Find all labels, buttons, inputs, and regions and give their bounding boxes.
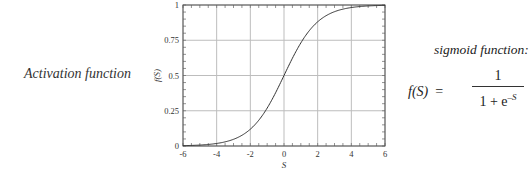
activation-function-label: Activation function — [24, 66, 131, 82]
formula-numerator: 1 — [472, 68, 524, 84]
formula-fraction: 1 1 + e–S — [472, 68, 524, 110]
x-tick-label: -4 — [213, 149, 221, 159]
y-tick-label: 0 — [175, 141, 179, 151]
x-tick-label: 0 — [282, 149, 286, 159]
denominator-base: 1 + e — [479, 94, 507, 109]
x-tick-label: 4 — [349, 149, 354, 159]
formula-title: sigmoid function: — [434, 42, 529, 58]
y-tick-label: 0.75 — [164, 35, 179, 45]
x-axis-label: S — [282, 160, 287, 170]
formula-lhs-text: f(S) — [408, 84, 428, 99]
sigmoid-chart: -6-4-2024600.250.50.751Sf(S) — [140, 0, 390, 175]
y-axis-label: f(S) — [152, 69, 162, 82]
x-tick-label: 2 — [316, 149, 320, 159]
denominator-exponent: –S — [508, 92, 517, 102]
y-tick-label: 0.5 — [168, 71, 179, 81]
formula-lhs: f(S)= — [408, 84, 443, 100]
x-tick-label: -2 — [247, 149, 254, 159]
x-tick-label: 6 — [383, 149, 387, 159]
y-tick-label: 1 — [175, 0, 179, 10]
fraction-bar — [472, 86, 524, 87]
y-tick-label: 0.25 — [164, 106, 179, 116]
chart-canvas: -6-4-2024600.250.50.751Sf(S) — [140, 0, 390, 175]
formula-denominator: 1 + e–S — [472, 89, 524, 110]
formula-equals: = — [435, 84, 443, 99]
x-tick-label: -6 — [179, 149, 186, 159]
